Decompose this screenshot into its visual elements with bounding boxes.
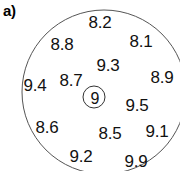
data-value-label: 9.5 xyxy=(125,97,148,114)
data-value-label: 8.7 xyxy=(59,72,82,89)
data-value-label: 9.3 xyxy=(96,57,119,74)
data-value-label: 9.9 xyxy=(124,153,147,170)
data-value-label: 8.9 xyxy=(150,69,173,86)
data-value-label: 8.5 xyxy=(98,125,121,142)
center-value-marker: 9 xyxy=(83,86,108,111)
data-value-label: 9.2 xyxy=(69,148,92,165)
data-value-label: 8.1 xyxy=(129,33,152,50)
data-value-label: 8.2 xyxy=(88,14,111,31)
data-value-label: 8.6 xyxy=(35,119,58,136)
data-value-label: 9.4 xyxy=(23,77,46,94)
figure-panel-a: a) 8.28.88.19.39.48.78.99.58.68.59.19.29… xyxy=(0,0,180,171)
data-value-label: 9.1 xyxy=(145,123,168,140)
center-value-label: 9 xyxy=(91,90,100,106)
data-value-label: 8.8 xyxy=(50,36,73,53)
